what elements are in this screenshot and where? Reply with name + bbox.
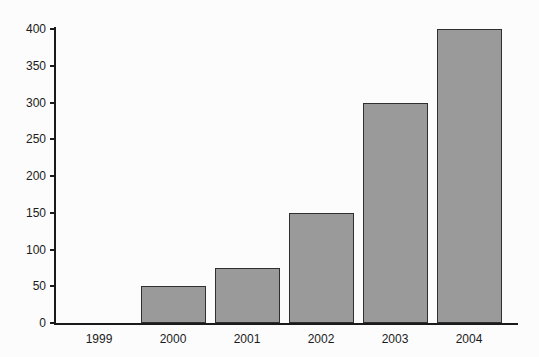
x-tick-label: 2004 (432, 333, 506, 345)
y-tick-label: 150 (12, 207, 46, 219)
y-tick-mark (50, 102, 55, 104)
x-tick-label: 2000 (136, 333, 210, 345)
y-tick-mark (50, 322, 55, 324)
y-tick-label: 50 (12, 280, 46, 292)
bar-2001 (215, 268, 280, 323)
bar-2003 (363, 103, 428, 324)
x-tick-label: 2002 (284, 333, 358, 345)
x-axis-line (54, 323, 518, 325)
y-tick-label: 350 (12, 60, 46, 72)
x-tick-label: 2001 (210, 333, 284, 345)
bar-chart: 0501001502002503003504001999200020012002… (0, 0, 539, 357)
y-tick-label: 0 (12, 317, 46, 329)
y-tick-label: 300 (12, 97, 46, 109)
y-tick-mark (50, 212, 55, 214)
bar-2002 (289, 213, 354, 323)
y-tick-label: 200 (12, 170, 46, 182)
y-tick-mark (50, 65, 55, 67)
bar-2000 (141, 286, 206, 323)
y-tick-label: 400 (12, 23, 46, 35)
y-tick-mark (50, 249, 55, 251)
y-tick-mark (50, 175, 55, 177)
bar-2004 (437, 29, 502, 323)
x-tick-label: 1999 (62, 333, 136, 345)
y-tick-mark (50, 285, 55, 287)
y-tick-mark (50, 138, 55, 140)
y-tick-label: 250 (12, 133, 46, 145)
x-tick-label: 2003 (358, 333, 432, 345)
y-tick-label: 100 (12, 244, 46, 256)
y-tick-mark (50, 28, 55, 30)
